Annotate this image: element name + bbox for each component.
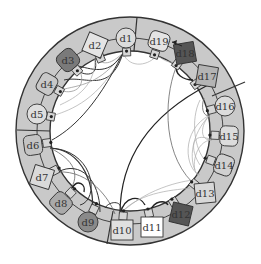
port-dot xyxy=(125,49,128,52)
edge xyxy=(195,100,205,160)
port-box xyxy=(119,212,128,221)
port-dot xyxy=(58,166,61,169)
port-dot xyxy=(208,133,211,136)
node-d16[interactable]: d16 xyxy=(215,96,235,116)
node-label: d16 xyxy=(215,101,234,112)
node-label: d15 xyxy=(219,131,238,142)
node-label: d18 xyxy=(175,48,194,59)
circular-diagram: d1d2d3d4d5d6d7d8d9d10d11d12d13d14d15d16d… xyxy=(0,0,261,264)
node-label: d2 xyxy=(89,40,102,51)
port-dot xyxy=(204,157,207,160)
node-d15[interactable]: d15 xyxy=(219,126,238,147)
node-label: d5 xyxy=(31,109,44,120)
node-label: d10 xyxy=(112,225,131,236)
node-label: d8 xyxy=(55,198,68,209)
port-dot xyxy=(76,69,79,72)
node-label: d14 xyxy=(214,160,233,171)
port-box xyxy=(211,131,219,139)
node-label: d12 xyxy=(171,209,190,220)
port-dot xyxy=(59,90,62,93)
port-dot xyxy=(153,53,156,56)
ring-inner-border xyxy=(50,51,210,211)
node-label: d19 xyxy=(149,36,168,47)
node-d13[interactable]: d13 xyxy=(194,182,216,204)
node-d10[interactable]: d10 xyxy=(111,220,133,240)
port-dot xyxy=(170,198,173,201)
port-dot xyxy=(73,187,76,190)
node-label: d17 xyxy=(197,71,216,82)
node-label: d3 xyxy=(62,55,75,66)
node-d6[interactable]: d6 xyxy=(23,134,44,156)
node-label: d13 xyxy=(195,188,214,199)
node-label: d7 xyxy=(36,172,49,183)
node-d5[interactable]: d5 xyxy=(27,104,47,124)
port-dot xyxy=(50,115,53,118)
port-dot xyxy=(122,209,125,212)
edge xyxy=(168,63,192,182)
node-d17[interactable]: d17 xyxy=(195,64,218,87)
port-dot xyxy=(206,109,209,112)
port-dot xyxy=(95,202,98,205)
node-label: d4 xyxy=(41,79,54,90)
node-label: d6 xyxy=(27,140,40,151)
node-label: d11 xyxy=(142,222,161,233)
node-d11[interactable]: d11 xyxy=(141,217,163,237)
port-dot xyxy=(190,180,193,183)
node-label: d1 xyxy=(120,33,133,44)
node-d1[interactable]: d1 xyxy=(116,28,136,48)
port-dot xyxy=(49,141,52,144)
node-d18[interactable]: d18 xyxy=(173,41,196,64)
node-d9[interactable]: d9 xyxy=(78,212,98,232)
port-dot xyxy=(146,207,149,210)
node-label: d9 xyxy=(82,217,95,228)
node-d12[interactable]: d12 xyxy=(169,202,193,226)
